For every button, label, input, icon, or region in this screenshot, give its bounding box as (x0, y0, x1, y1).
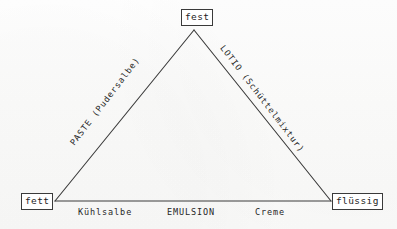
triangle-edge-left (55, 30, 194, 201)
vertex-label-fluessig: flüssig (332, 193, 383, 210)
base-label-kuehlsalbe: Kühlsalbe (78, 208, 132, 217)
vertex-label-fett: fett (21, 193, 53, 210)
base-label-emulsion: EMULSION (167, 208, 215, 217)
diagram-canvas: fest fett flüssig PASTE (Pudersalbe) LOT… (0, 0, 397, 229)
base-label-creme: Creme (255, 208, 285, 217)
vertex-label-fest: fest (181, 9, 213, 26)
triangle-edge-right (194, 30, 331, 201)
